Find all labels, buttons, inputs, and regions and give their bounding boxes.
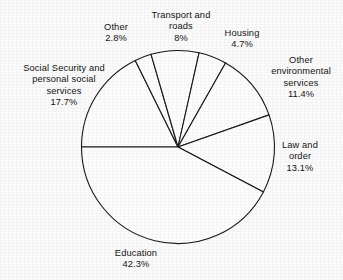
pie-chart: Social Security and personal social serv… <box>0 0 343 280</box>
slice-label-education: Education 42.3% <box>88 248 184 271</box>
slice-label-housing: Housing 4.7% <box>212 28 272 51</box>
slice-label-law-and-order: Law and order 13.1% <box>270 140 330 174</box>
slice-label-transport-and-roads: Transport and roads 8% <box>140 10 222 44</box>
slice-label-other-environmental-services: Other environmental services 11.4% <box>262 55 340 101</box>
slice-label-other: Other 2.8% <box>88 22 144 45</box>
slice-label-social-security: Social Security and personal social serv… <box>8 63 120 109</box>
